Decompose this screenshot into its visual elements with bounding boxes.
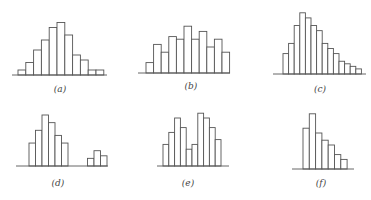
label-e: (e) (168, 178, 208, 188)
histogram-bar (80, 60, 88, 75)
histogram-bar (303, 128, 309, 169)
histogram-bar (57, 23, 65, 76)
histogram-bar (322, 43, 328, 74)
histogram-bar (204, 118, 210, 166)
histogram-bar (41, 40, 49, 75)
histogram-bar (328, 49, 334, 75)
histogram-bar (356, 69, 362, 74)
histogram-bar (73, 55, 81, 75)
histogram-bar (18, 70, 26, 75)
histogram-bar (96, 70, 104, 75)
histogram-bar (180, 128, 186, 166)
histogram-bar (36, 130, 43, 166)
histogram-e (157, 113, 229, 166)
histogram-bar (169, 37, 177, 73)
histogram-bar (175, 118, 181, 166)
label-f: (f) (301, 178, 341, 188)
histogram-bar (341, 159, 347, 169)
histogram-bar (154, 44, 162, 73)
histogram-bar (328, 145, 334, 169)
histogram-bar (305, 18, 311, 74)
histogram-bar (339, 61, 345, 74)
histogram-bar (192, 144, 198, 166)
histogram-bar (317, 31, 323, 74)
label-b: (b) (171, 81, 211, 91)
histogram-bar (161, 52, 169, 73)
histogram-bar (65, 35, 73, 75)
histogram-bar (169, 132, 175, 166)
histogram-bar (146, 63, 154, 73)
histogram-bar (198, 113, 204, 166)
histogram-bar (316, 133, 322, 169)
histogram-d (16, 115, 108, 166)
histogram-bar (289, 43, 295, 74)
histogram-bar (88, 158, 95, 166)
histogram-bar (294, 26, 300, 74)
histogram-bar (222, 52, 230, 73)
histogram-bar (192, 39, 200, 73)
histogram-c (273, 13, 366, 74)
histogram-bar (163, 144, 169, 166)
histogram-f (292, 114, 354, 169)
histogram-bar (322, 140, 328, 169)
histogram-bar (214, 39, 222, 73)
histogram-bar (184, 26, 192, 73)
histogram-b (138, 26, 230, 73)
histogram-bar (62, 143, 69, 166)
histogram-a (12, 23, 107, 76)
histogram-bar (49, 123, 56, 166)
histogram-bar (283, 54, 289, 74)
histogram-bar (209, 128, 215, 166)
label-d: (d) (38, 178, 78, 188)
histogram-bar (49, 28, 57, 76)
histogram-bar (186, 149, 192, 166)
label-c: (c) (300, 84, 340, 94)
histogram-bar (26, 63, 34, 76)
histogram-bar (94, 151, 101, 166)
histogram-bar (215, 140, 221, 166)
histogram-bar (29, 143, 36, 166)
histogram-bar (42, 115, 49, 166)
histogram-bar (34, 50, 42, 75)
histogram-bar (350, 66, 356, 74)
histogram-bar (207, 47, 215, 73)
histogram-bar (300, 13, 306, 74)
histogram-bar (199, 31, 207, 73)
histogram-bar (333, 54, 339, 74)
histogram-bar (335, 155, 341, 169)
histogram-bar (345, 64, 351, 74)
histogram-bar (88, 70, 96, 75)
label-a: (a) (40, 84, 80, 94)
histogram-bar (176, 39, 184, 73)
histogram-bar (101, 156, 108, 166)
histogram-bar (311, 26, 317, 74)
histogram-bar (55, 135, 62, 166)
histogram-grid (0, 0, 371, 200)
histogram-bar (309, 114, 315, 169)
